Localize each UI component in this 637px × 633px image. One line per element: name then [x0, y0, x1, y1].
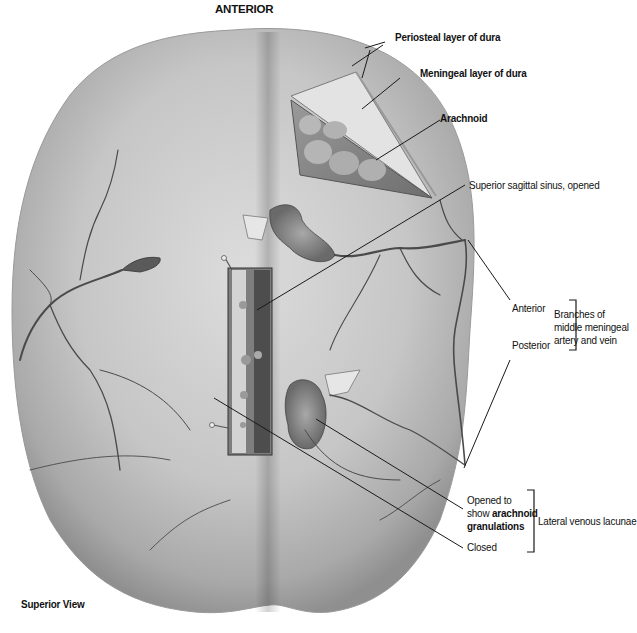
- label-branches-line1: Branches of: [554, 308, 605, 321]
- label-anterior-orientation: ANTERIOR: [215, 3, 273, 16]
- label-superior-view: Superior View: [21, 598, 85, 611]
- label-meningeal-layer: Meningeal layer of dura: [420, 67, 527, 80]
- label-periosteal-layer: Periosteal layer of dura: [395, 31, 500, 44]
- anatomy-figure: ANTERIOR Periosteal layer of dura Mening…: [0, 0, 637, 633]
- label-opened-granulations: granulations: [467, 520, 524, 533]
- label-branches-line3: artery and vein: [554, 334, 617, 347]
- label-posterior-branch: Posterior: [512, 339, 550, 352]
- label-closed: Closed: [467, 541, 497, 554]
- label-opened-arachnoid: arachnoid: [492, 507, 538, 519]
- dura-illustration: [0, 0, 637, 633]
- label-superior-sagittal-sinus: Superior sagittal sinus, opened: [469, 179, 599, 192]
- label-lateral-venous-lacunae: Lateral venous lacunae: [538, 515, 636, 528]
- label-anterior-branch: Anterior: [512, 302, 545, 315]
- label-opened-prefix: show: [467, 507, 492, 519]
- label-arachnoid: Arachnoid: [440, 112, 487, 125]
- label-opened-line1: Opened to: [467, 494, 512, 507]
- label-opened-line2: show arachnoid: [467, 507, 538, 520]
- label-branches-line2: middle meningeal: [554, 321, 629, 334]
